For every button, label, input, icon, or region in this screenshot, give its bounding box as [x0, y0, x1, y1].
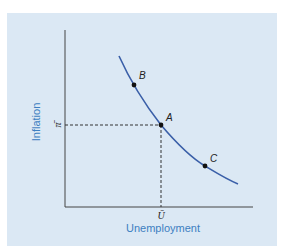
y-axis-title: Inflation: [30, 103, 42, 142]
phillips-curve: [119, 56, 238, 184]
point-b-marker: [132, 83, 137, 88]
point-b-label: B: [139, 70, 146, 81]
phillips-curve-chart: B A C π̄ Ū Inflation Unemployment: [0, 0, 290, 246]
x-tick-label: Ū: [157, 210, 165, 221]
x-axis-title: Unemployment: [126, 222, 200, 234]
y-tick-label: π̄: [52, 119, 63, 127]
point-c-marker: [203, 164, 208, 169]
point-a-marker: [159, 123, 164, 128]
point-a-label: A: [165, 112, 173, 123]
point-c-label: C: [210, 153, 218, 164]
